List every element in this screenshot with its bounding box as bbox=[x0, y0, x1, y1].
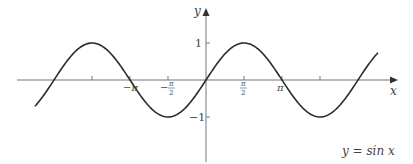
equation-label: y = sin x bbox=[341, 144, 395, 158]
svg-text:2: 2 bbox=[169, 89, 173, 97]
svg-text:π: π bbox=[168, 80, 174, 88]
x-axis-arrow-icon bbox=[390, 77, 398, 84]
y-tick-label-neg1: −1 bbox=[189, 111, 205, 124]
y-axis-arrow-icon bbox=[203, 8, 210, 16]
sine-chart: y x 1 −1 −π − π 2 π 2 π y = sin x bbox=[0, 0, 413, 164]
x-tick-label-neg-pi: −π bbox=[123, 82, 138, 93]
y-axis-label: y bbox=[193, 4, 201, 18]
y-tick-label-1: 1 bbox=[195, 37, 202, 50]
svg-text:−: − bbox=[160, 82, 168, 93]
x-tick-label-neg-half-pi: − π 2 bbox=[160, 80, 175, 97]
x-tick-label-pi: π bbox=[276, 82, 284, 93]
svg-text:π: π bbox=[240, 80, 246, 88]
x-tick-label-half-pi: π 2 bbox=[240, 80, 247, 97]
x-axis-label: x bbox=[390, 84, 397, 98]
svg-text:2: 2 bbox=[241, 89, 245, 97]
